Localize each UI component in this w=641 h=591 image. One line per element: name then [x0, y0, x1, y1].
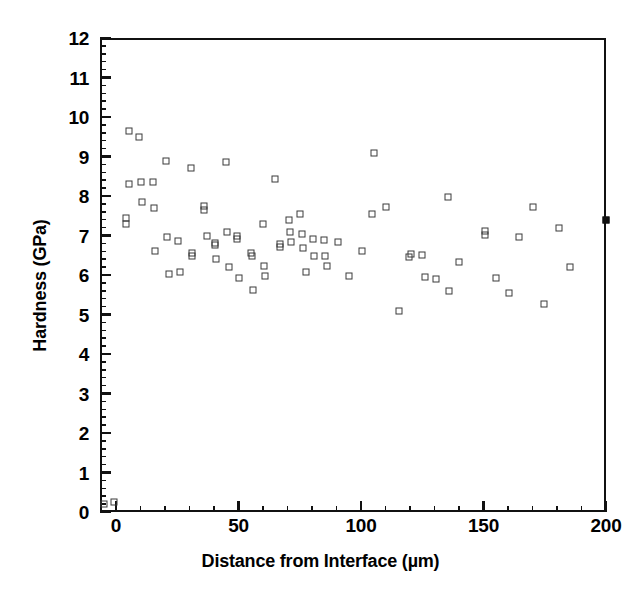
x-tick-minor	[287, 506, 289, 512]
y-tick-minor	[100, 456, 106, 458]
y-tick-major	[100, 511, 111, 514]
y-tick-label: 3	[49, 384, 89, 403]
y-tick-minor	[100, 132, 106, 134]
y-tick-label: 8	[49, 187, 89, 206]
y-tick-major	[100, 155, 111, 158]
y-tick-minor	[100, 211, 106, 213]
y-tick-minor	[100, 480, 106, 482]
x-tick-minor	[262, 506, 264, 512]
y-tick-minor	[100, 124, 106, 126]
y-tick-minor	[100, 179, 106, 181]
y-tick-label: 9	[49, 147, 89, 166]
y-tick-minor	[100, 187, 106, 189]
x-tick-label: 150	[449, 516, 519, 535]
x-tick-minor	[434, 506, 436, 512]
y-tick-label: 6	[49, 266, 89, 285]
y-tick-minor	[100, 345, 106, 347]
y-tick-minor	[100, 385, 106, 387]
x-tick-minor	[140, 506, 142, 512]
x-tick-minor	[164, 506, 166, 512]
y-tick-minor	[100, 148, 106, 150]
x-tick-minor	[581, 506, 583, 512]
y-tick-minor	[100, 93, 106, 95]
y-tick-minor	[100, 416, 106, 418]
x-tick-major	[237, 501, 240, 512]
y-tick-minor	[100, 369, 106, 371]
y-tick-minor	[100, 266, 106, 268]
x-tick-minor	[336, 506, 338, 512]
y-tick-minor	[100, 322, 106, 324]
x-tick-minor	[458, 506, 460, 512]
y-tick-minor	[100, 424, 106, 426]
y-tick-major	[100, 392, 111, 395]
y-tick-minor	[100, 53, 106, 55]
plot-area-frame	[100, 38, 606, 512]
y-tick-minor	[100, 69, 106, 71]
x-tick-major	[482, 501, 485, 512]
y-tick-minor	[100, 298, 106, 300]
y-tick-minor	[100, 306, 106, 308]
x-tick-major	[115, 501, 118, 512]
x-tick-minor	[385, 506, 387, 512]
x-tick-label: 0	[81, 516, 151, 535]
y-tick-minor	[100, 227, 106, 229]
y-tick-major	[100, 313, 111, 316]
y-tick-minor	[100, 448, 106, 450]
y-tick-major	[100, 116, 111, 119]
x-tick-label: 200	[571, 516, 641, 535]
x-tick-minor	[556, 506, 558, 512]
x-tick-minor	[311, 506, 313, 512]
y-tick-minor	[100, 108, 106, 110]
y-tick-minor	[100, 140, 106, 142]
y-tick-label: 12	[49, 29, 89, 48]
x-tick-label: 100	[326, 516, 396, 535]
y-tick-minor	[100, 488, 106, 490]
y-tick-label: 1	[49, 463, 89, 482]
y-tick-major	[100, 432, 111, 435]
y-tick-minor	[100, 330, 106, 332]
y-tick-minor	[100, 377, 106, 379]
y-tick-major	[100, 274, 111, 277]
y-tick-minor	[100, 258, 106, 260]
y-tick-minor	[100, 337, 106, 339]
x-tick-minor	[532, 506, 534, 512]
y-tick-minor	[100, 100, 106, 102]
y-tick-minor	[100, 282, 106, 284]
y-tick-label: 10	[49, 108, 89, 127]
y-tick-major	[100, 234, 111, 237]
y-tick-minor	[100, 45, 106, 47]
y-tick-minor	[100, 440, 106, 442]
y-tick-minor	[100, 401, 106, 403]
y-tick-label: 7	[49, 226, 89, 245]
y-tick-major	[100, 76, 111, 79]
y-tick-minor	[100, 172, 106, 174]
y-tick-minor	[100, 85, 106, 87]
x-tick-minor	[507, 506, 509, 512]
y-tick-label: 11	[49, 68, 89, 87]
x-tick-major	[360, 501, 363, 512]
y-tick-major	[100, 37, 111, 40]
y-tick-minor	[100, 464, 106, 466]
x-axis-title: Distance from Interface (µm)	[0, 551, 641, 572]
y-tick-minor	[100, 503, 106, 505]
x-tick-major	[605, 501, 608, 512]
y-tick-major	[100, 195, 111, 198]
y-tick-minor	[100, 290, 106, 292]
x-tick-minor	[409, 506, 411, 512]
y-tick-label: 2	[49, 424, 89, 443]
x-tick-minor	[213, 506, 215, 512]
y-tick-minor	[100, 243, 106, 245]
y-tick-minor	[100, 361, 106, 363]
y-tick-label: 5	[49, 305, 89, 324]
y-tick-minor	[100, 61, 106, 63]
y-tick-minor	[100, 409, 106, 411]
y-tick-minor	[100, 495, 106, 497]
y-tick-minor	[100, 251, 106, 253]
y-tick-minor	[100, 219, 106, 221]
y-tick-label: 4	[49, 345, 89, 364]
hardness-vs-distance-scatter-chart: 0123456789101112050100150200 Distance fr…	[0, 0, 641, 591]
y-tick-major	[100, 353, 111, 356]
y-tick-major	[100, 471, 111, 474]
x-tick-minor	[189, 506, 191, 512]
y-axis-title: Hardness (GPa)	[30, 136, 51, 436]
